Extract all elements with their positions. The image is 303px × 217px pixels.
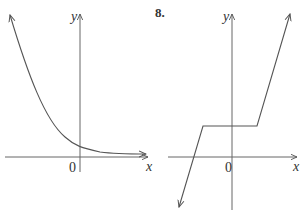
right-piecewise-line (179, 14, 290, 207)
problem-number: 8. (155, 6, 165, 19)
right-graph (168, 14, 297, 210)
left-origin-label: 0 (69, 161, 76, 175)
left-graph (5, 14, 148, 172)
right-x-label: x (293, 160, 299, 174)
left-y-label: y (71, 10, 77, 24)
graphs-canvas (0, 0, 303, 217)
right-y-label: y (223, 10, 229, 24)
left-x-label: x (146, 160, 152, 174)
left-curve (10, 15, 146, 154)
right-origin-label: 0 (225, 161, 232, 175)
